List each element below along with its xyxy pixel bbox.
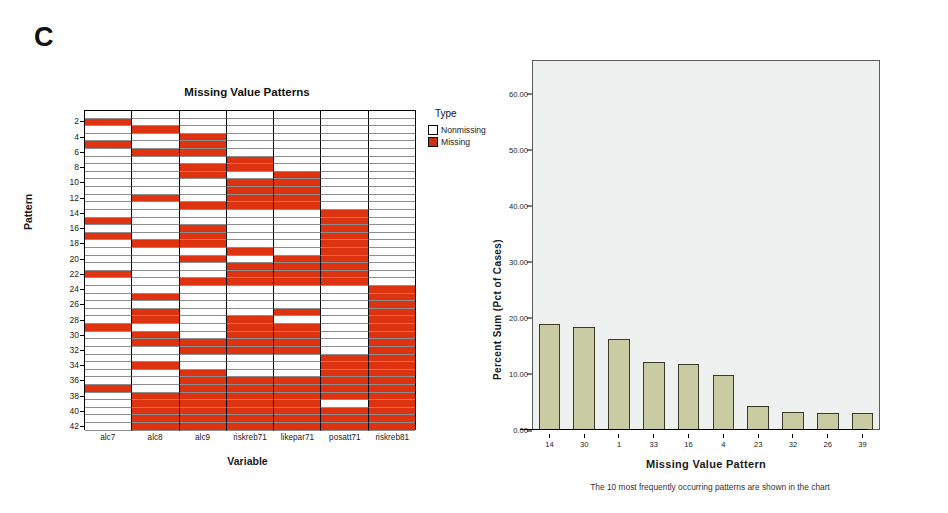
heatmap-cell-missing [369, 347, 415, 355]
heatmap-cell-nonmissing [321, 332, 368, 340]
barchart-bar [852, 413, 874, 430]
heatmap-cell-nonmissing [85, 256, 132, 264]
heatmap-cell-nonmissing [274, 294, 321, 302]
heatmap-row [85, 362, 415, 370]
heatmap-plot-area [84, 110, 416, 430]
heatmap-cell-nonmissing [85, 393, 132, 401]
heatmap-row [85, 195, 415, 203]
heatmap-cell-nonmissing [227, 149, 274, 157]
heatmap-cell-missing [180, 423, 227, 431]
barchart-bar-slot [532, 60, 567, 430]
heatmap-cell-missing [227, 263, 274, 271]
heatmap-cell-nonmissing [227, 294, 274, 302]
heatmap-cell-missing [321, 385, 368, 393]
heatmap-cell-nonmissing [180, 362, 227, 370]
heatmap-cell-nonmissing [132, 202, 179, 210]
heatmap-cell-missing [321, 240, 368, 248]
heatmap-cell-nonmissing [180, 111, 227, 119]
heatmap-cell-nonmissing [321, 339, 368, 347]
barchart-bar [539, 324, 561, 430]
heatmap-cell-missing [321, 377, 368, 385]
heatmap-cell-missing [321, 248, 368, 256]
heatmap-row [85, 408, 415, 416]
heatmap-row [85, 141, 415, 149]
heatmap-cell-missing [321, 278, 368, 286]
heatmap-y-tick: 24 [70, 284, 79, 294]
heatmap-cell-nonmissing [85, 355, 132, 363]
heatmap-row [85, 347, 415, 355]
heatmap-cell-missing [180, 240, 227, 248]
barchart-bar [678, 364, 700, 430]
heatmap-cell-nonmissing [321, 316, 368, 324]
heatmap-cell-nonmissing [227, 355, 274, 363]
barchart-bar-slot [810, 60, 845, 430]
heatmap-y-tick: 36 [70, 375, 79, 385]
heatmap-cell-nonmissing [85, 134, 132, 142]
panel-c-heatmap: C Missing Value Patterns Pattern Variabl… [0, 0, 470, 513]
heatmap-cell-missing [369, 294, 415, 302]
barchart-bar-slot [671, 60, 706, 430]
heatmap-cell-nonmissing [321, 149, 368, 157]
heatmap-cell-nonmissing [369, 225, 415, 233]
heatmap-cell-nonmissing [321, 301, 368, 309]
heatmap-row [85, 294, 415, 302]
heatmap-cell-nonmissing [227, 218, 274, 226]
barchart-bar [608, 339, 630, 430]
heatmap-cell-missing [274, 339, 321, 347]
heatmap-cell-missing [321, 423, 368, 431]
heatmap-cell-nonmissing [132, 179, 179, 187]
heatmap-cell-nonmissing [85, 286, 132, 294]
heatmap-cell-missing [321, 362, 368, 370]
heatmap-row [85, 355, 415, 363]
heatmap-cell-missing [180, 370, 227, 378]
heatmap-cell-nonmissing [132, 377, 179, 385]
heatmap-cell-missing [321, 218, 368, 226]
heatmap-cell-nonmissing [85, 126, 132, 134]
heatmap-cell-missing [274, 415, 321, 423]
heatmap-cell-nonmissing [369, 202, 415, 210]
barchart-baseline-axis [520, 429, 868, 430]
heatmap-row [85, 339, 415, 347]
barchart-x-tick: 14 [532, 434, 567, 449]
heatmap-cell-nonmissing [274, 126, 321, 134]
barchart-bar-slot [602, 60, 637, 430]
barchart-bar [817, 413, 839, 430]
heatmap-cell-nonmissing [85, 210, 132, 218]
heatmap-cell-missing [274, 423, 321, 431]
legend-swatch-missing-icon [428, 137, 438, 147]
heatmap-cell-nonmissing [321, 157, 368, 165]
barchart-x-tick: 32 [776, 434, 811, 449]
heatmap-row [85, 225, 415, 233]
heatmap-cell-nonmissing [132, 301, 179, 309]
heatmap-cell-nonmissing [85, 362, 132, 370]
heatmap-cell-nonmissing [321, 286, 368, 294]
heatmap-cell-nonmissing [85, 301, 132, 309]
heatmap-cell-missing [274, 393, 321, 401]
heatmap-cell-nonmissing [369, 278, 415, 286]
heatmap-cell-nonmissing [85, 339, 132, 347]
heatmap-cell-missing [227, 400, 274, 408]
barchart-bar-slot [845, 60, 880, 430]
heatmap-cell-missing [227, 339, 274, 347]
heatmap-cell-nonmissing [85, 347, 132, 355]
heatmap-cell-nonmissing [180, 218, 227, 226]
heatmap-row [85, 393, 415, 401]
heatmap-cell-nonmissing [227, 134, 274, 142]
heatmap-cell-nonmissing [274, 134, 321, 142]
heatmap-cell-missing [180, 415, 227, 423]
heatmap-cell-nonmissing [227, 256, 274, 264]
barchart-bar-slot [636, 60, 671, 430]
heatmap-cell-missing [227, 179, 274, 187]
heatmap-y-tick: 40 [70, 406, 79, 416]
heatmap-cell-nonmissing [85, 149, 132, 157]
barchart-x-tick: 16 [671, 434, 706, 449]
heatmap-cell-missing [227, 195, 274, 203]
heatmap-cell-nonmissing [85, 316, 132, 324]
heatmap-cell-nonmissing [369, 157, 415, 165]
heatmap-cell-missing [132, 362, 179, 370]
heatmap-cell-nonmissing [369, 141, 415, 149]
heatmap-cell-missing [274, 377, 321, 385]
heatmap-cell-nonmissing [274, 240, 321, 248]
heatmap-cell-nonmissing [321, 202, 368, 210]
heatmap-cell-nonmissing [180, 301, 227, 309]
